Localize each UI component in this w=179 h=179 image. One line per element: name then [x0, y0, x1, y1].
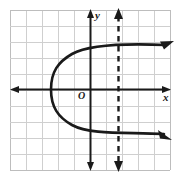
y-axis-label: y	[95, 10, 100, 21]
graph-figure: y x O	[0, 0, 179, 179]
x-axis-label: x	[163, 92, 169, 103]
origin-label: O	[78, 91, 85, 101]
coordinate-plane-svg	[0, 0, 179, 179]
